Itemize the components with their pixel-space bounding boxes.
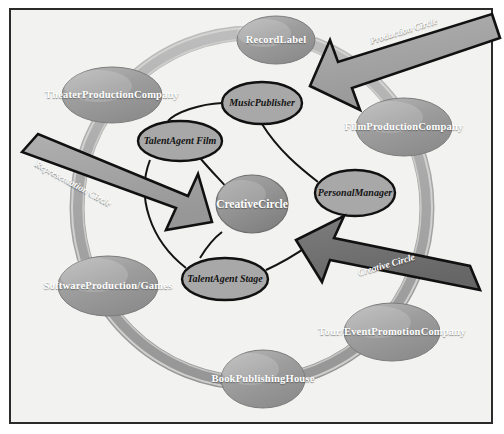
diagram-canvas: RecordLabel TheaterProductionCompany Fil…: [0, 0, 504, 434]
outer-node-tour-event-promotion-company[interactable]: [344, 303, 440, 361]
arrow-creative-circle: [296, 216, 480, 290]
center-node-creative-circle[interactable]: [216, 175, 288, 233]
inner-node-music-publisher[interactable]: [222, 82, 302, 124]
inner-node-talent-agent-film[interactable]: [138, 121, 222, 161]
arrow-production-circle: [310, 14, 500, 110]
outer-node-book-publishing-house[interactable]: [221, 350, 305, 408]
outer-node-record-label[interactable]: [237, 16, 315, 64]
inner-node-personal-manager[interactable]: [315, 170, 395, 216]
diagram-graphics: [0, 0, 504, 434]
outer-node-film-production-company[interactable]: [356, 98, 452, 156]
outer-node-theater-production-company[interactable]: [62, 67, 162, 123]
inner-node-talent-agent-stage[interactable]: [182, 258, 268, 300]
outer-node-software-production-games[interactable]: [58, 256, 158, 316]
